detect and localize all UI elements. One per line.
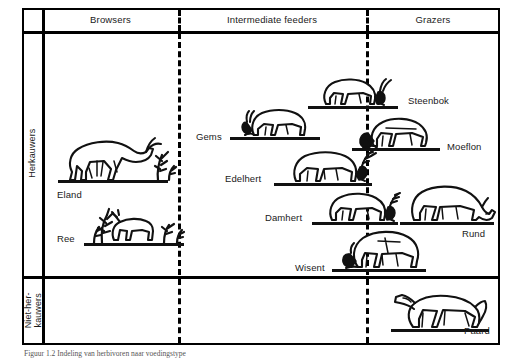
animal-label-rund: Rund — [462, 228, 485, 239]
column-header-grazers: Grazers — [366, 8, 500, 31]
column-header-browsers: Browsers — [43, 8, 178, 31]
animal-label-gems: Gems — [196, 131, 222, 142]
animal-illustration-rund — [398, 182, 502, 230]
animal-illustration-ree — [84, 206, 186, 248]
row-label-non-ruminants: Niet-her- kauwers — [22, 276, 43, 345]
animal-label-wisent: Wisent — [295, 262, 325, 273]
figure-caption: Figuur 1.2 Indeling van herbivoren naar … — [24, 349, 186, 358]
animal-label-moeflon: Moeflon — [447, 141, 482, 152]
animal-illustration-wisent — [330, 228, 434, 276]
column-header-browsers-text: Browsers — [90, 14, 131, 25]
animal-label-paard: Paard — [464, 325, 490, 336]
column-divider-dashed-left-header — [178, 10, 181, 31]
column-divider-dashed-right-bottom — [366, 279, 369, 343]
animal-label-damhert: Damhert — [265, 212, 302, 223]
animal-label-eland: Eland — [57, 189, 82, 200]
header-bottom-rule — [22, 31, 500, 34]
animal-label-edelhert: Edelhert — [225, 173, 261, 184]
animal-illustration-damhert — [310, 186, 408, 228]
row-label-non-ruminants-text: Niet-her- kauwers — [22, 293, 43, 329]
column-header-intermediate-feeders-text: Intermediate feeders — [227, 14, 317, 25]
animal-label-ree: Ree — [57, 233, 75, 244]
animal-illustration-moeflon — [350, 112, 446, 154]
animal-illustration-steenbok — [308, 74, 400, 112]
column-divider-dashed-right-header — [366, 10, 369, 31]
row-divider-rule — [22, 276, 500, 279]
row-label-ruminants: Herkauwers — [22, 31, 43, 276]
column-header-grazers-text: Grazers — [416, 14, 451, 25]
animal-illustration-eland — [56, 128, 178, 186]
animal-label-steenbok: Steenbok — [408, 95, 449, 106]
column-divider-dashed-left-bottom — [178, 279, 181, 343]
row-label-ruminants-text: Herkauwers — [27, 129, 37, 178]
column-header-intermediate-feeders: Intermediate feeders — [178, 8, 366, 31]
